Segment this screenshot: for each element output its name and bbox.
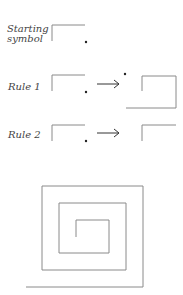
rule1-left-symbol xyxy=(52,75,87,93)
rule1-right-symbol xyxy=(124,73,176,108)
spiral-figure xyxy=(26,186,143,287)
diagram-canvas xyxy=(0,0,183,295)
rule2-left-symbol xyxy=(52,125,87,142)
rule2-right-symbol xyxy=(142,125,176,141)
starting-symbol xyxy=(52,25,87,43)
rule1-arrow-icon xyxy=(97,80,119,88)
rule2-arrow-icon xyxy=(97,129,119,137)
